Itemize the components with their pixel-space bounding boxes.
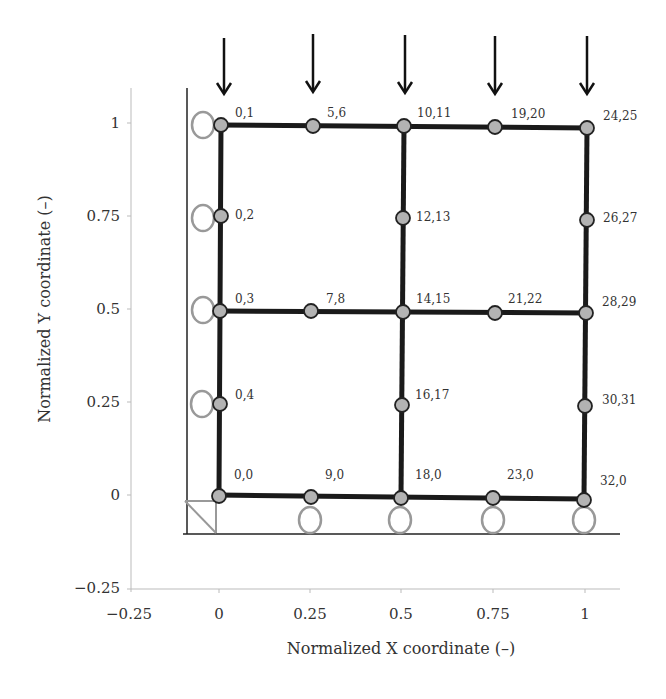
y-tick-label: 0 [110, 486, 120, 504]
node-label: 0,4 [235, 388, 254, 402]
roller-support-icon [192, 205, 214, 231]
node-label: 0,1 [235, 106, 254, 120]
x-tick-label: 1 [580, 605, 590, 623]
y-tick-label: 0.5 [96, 300, 120, 318]
roller-support-icon [482, 507, 504, 533]
x-tick-label: 0.75 [476, 605, 509, 623]
node-label: 12,13 [416, 210, 450, 224]
roller-support-icon [389, 507, 411, 533]
roller-support-icon [299, 507, 321, 533]
frame-diagram: 1 0.75 0.5 0.25 0 −0.25 −0.25 0 0.25 0.5… [0, 0, 666, 699]
node-label: 16,17 [415, 388, 449, 402]
y-tick-labels: 1 0.75 0.5 0.25 0 −0.25 [74, 114, 120, 597]
node-label: 28,29 [602, 295, 636, 309]
y-tick-label: −0.25 [74, 579, 120, 597]
arrow-down-icon [306, 34, 320, 92]
x-tick-label: −0.25 [106, 605, 152, 623]
node [488, 306, 502, 320]
node-label: 32,0 [600, 474, 627, 488]
y-tick-label: 1 [110, 114, 120, 132]
node-label: 23,0 [507, 468, 534, 482]
x-tick-label: 0.25 [293, 605, 326, 623]
node [214, 118, 228, 132]
node [304, 490, 318, 504]
node [577, 493, 591, 507]
node-label: 14,15 [416, 292, 450, 306]
node-label: 24,25 [603, 109, 637, 123]
node [394, 491, 408, 505]
node-label: 10,11 [417, 106, 451, 120]
x-tick-label: 0.5 [389, 605, 413, 623]
node-label: 9,0 [325, 468, 344, 482]
node [304, 304, 318, 318]
node [486, 491, 500, 505]
node-label: 26,27 [603, 211, 637, 225]
arrow-down-icon [580, 36, 594, 94]
arrow-down-icon [398, 35, 412, 93]
node-label: 0,2 [235, 208, 254, 222]
y-tick-label: 0.25 [87, 393, 120, 411]
node-label: 30,31 [602, 393, 636, 407]
node [579, 306, 593, 320]
node [214, 209, 228, 223]
x-tick-label: 0 [214, 605, 224, 623]
load-arrows [217, 34, 594, 94]
node [580, 213, 594, 227]
node [580, 121, 594, 135]
node-label: 0,3 [235, 292, 254, 306]
node-label: 18,0 [415, 468, 442, 482]
left-roller-supports [191, 112, 214, 417]
node [212, 489, 226, 503]
node-labels: 0,1 5,6 10,11 19,20 24,25 0,2 12,13 26,2… [234, 106, 637, 488]
node-label: 19,20 [511, 107, 545, 121]
x-axis-title: Normalized X coordinate (–) [287, 639, 515, 658]
pin-support-icon [185, 501, 216, 533]
node [396, 211, 410, 225]
node [578, 399, 592, 413]
node [396, 305, 410, 319]
node [306, 119, 320, 133]
roller-support-icon [192, 112, 214, 138]
y-tick-label: 0.75 [87, 207, 120, 225]
bottom-roller-supports [299, 507, 595, 533]
y-axis-title: Normalized Y coordinate (–) [35, 195, 54, 423]
node [395, 398, 409, 412]
node [213, 397, 227, 411]
roller-support-icon [191, 391, 213, 417]
node-label: 21,22 [508, 292, 542, 306]
node [397, 119, 411, 133]
node-label: 5,6 [327, 106, 346, 120]
roller-support-icon [573, 507, 595, 533]
arrow-down-icon [217, 38, 231, 94]
arrow-down-icon [488, 36, 502, 94]
node [213, 304, 227, 318]
x-tick-labels: −0.25 0 0.25 0.5 0.75 1 [106, 605, 590, 623]
node-label: 0,0 [234, 468, 253, 482]
node-label: 7,8 [326, 292, 345, 306]
node [488, 120, 502, 134]
roller-support-icon [192, 297, 214, 323]
